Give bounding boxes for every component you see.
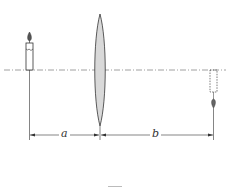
converging-lens — [95, 14, 106, 126]
label-b: b — [150, 128, 161, 140]
label-a: a — [59, 128, 70, 140]
lens-diagram — [0, 0, 230, 191]
caption-fragment — [108, 186, 122, 189]
image-candle — [210, 70, 217, 140]
object-candle — [26, 32, 33, 140]
